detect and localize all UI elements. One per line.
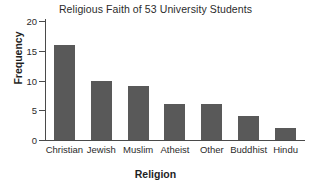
y-axis-tick-label: 5: [0, 110, 37, 111]
y-axis-tick-label: 10: [0, 81, 37, 82]
bar: [201, 104, 222, 140]
x-axis-line: [46, 140, 305, 141]
bar: [238, 116, 259, 140]
y-axis-tick: [39, 51, 45, 52]
bar: [275, 128, 296, 140]
plot-area: [46, 21, 304, 140]
bar: [128, 86, 149, 140]
x-axis-tick-label: Hindu: [263, 144, 308, 155]
bar: [164, 104, 185, 140]
y-axis-title: Frequency: [12, 13, 24, 103]
bar: [54, 45, 75, 140]
y-axis-tick: [39, 110, 45, 111]
x-axis-title: Religion: [0, 168, 311, 180]
y-axis-tick: [39, 81, 45, 82]
y-axis-tick-label: 15: [0, 51, 37, 52]
y-axis-tick: [39, 21, 45, 22]
y-axis-tick-label: 0: [0, 140, 37, 141]
bar-chart: Religious Faith of 53 University Student…: [0, 0, 311, 186]
y-axis-tick: [39, 140, 45, 141]
chart-title: Religious Faith of 53 University Student…: [0, 3, 311, 15]
y-axis-tick-label: 20: [0, 21, 37, 22]
bar: [91, 81, 112, 141]
